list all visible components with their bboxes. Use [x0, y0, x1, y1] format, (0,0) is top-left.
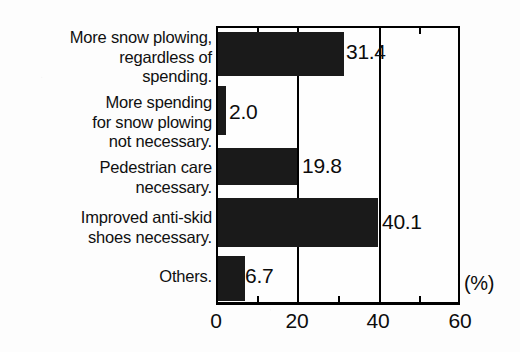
- value-label-0: 31.4: [346, 41, 386, 62]
- value-label-1: 2.0: [229, 101, 257, 122]
- value-label-4: 6.7: [245, 265, 273, 286]
- xtick-label-60: 60: [449, 309, 472, 332]
- bar-2: [218, 148, 297, 185]
- xtick-label-0: 0: [210, 309, 221, 332]
- xtick-label-40: 40: [367, 309, 390, 332]
- tick-bottom-10: [257, 296, 259, 302]
- bar-3: [218, 198, 378, 247]
- tick-bottom-50: [419, 296, 421, 302]
- value-label-2: 19.8: [302, 155, 342, 176]
- unit-label: (%): [464, 272, 494, 294]
- bar-0: [218, 32, 344, 76]
- bar-1: [218, 86, 226, 135]
- category-label-4: Others.: [159, 267, 212, 287]
- category-label-2: Pedestrian care necessary.: [99, 158, 212, 197]
- tick-top-50: [419, 28, 421, 34]
- xtick-label-20: 20: [286, 309, 309, 332]
- category-label-3: Improved anti-skid shoes necessary.: [81, 208, 212, 247]
- category-label-1: More spending for snow plowing not neces…: [92, 93, 212, 152]
- bar-chart-figure: More snow plowing, regardless of spendin…: [0, 0, 520, 352]
- value-label-3: 40.1: [382, 211, 422, 232]
- tick-bottom-30: [338, 296, 340, 302]
- bar-4: [218, 256, 245, 301]
- category-label-0: More snow plowing, regardless of spendin…: [70, 28, 212, 87]
- gridline-40: [379, 28, 381, 302]
